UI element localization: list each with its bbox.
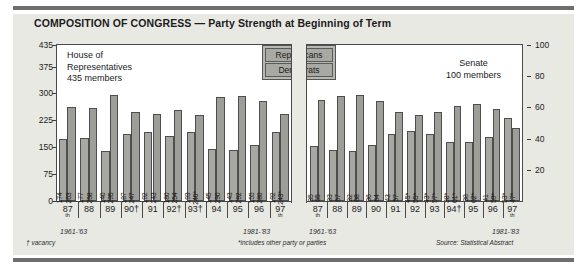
x-axis-label-96: 96 (248, 204, 269, 214)
bar-group: 155280 (248, 45, 269, 201)
bar-democrat[interactable]: 254 (174, 110, 183, 201)
y-tick-mark-right (527, 45, 531, 46)
bar-group: 3268 (347, 45, 366, 201)
bar-value-label: 240* (192, 191, 199, 205)
axis-separator (227, 201, 228, 218)
x-axis-label-89: 89 (100, 204, 121, 214)
bar-republican[interactable]: 180 (165, 136, 174, 201)
bar-democrat[interactable]: 243* (280, 114, 289, 201)
bar-value-label: 247 (128, 192, 135, 203)
bar-democrat[interactable]: 292 (238, 96, 247, 201)
bar-value-label: 174 (56, 192, 63, 203)
axis-separator (142, 201, 143, 218)
bar-democrat[interactable]: 55* (415, 115, 423, 201)
axis-separator (366, 201, 367, 218)
bar-democrat[interactable]: 47* (512, 128, 520, 201)
footnote-other-party: *includes other party or parties (238, 239, 326, 246)
y-tick-left-225: 225 (39, 115, 53, 125)
bar-republican[interactable]: 41 (485, 137, 493, 201)
bar-democrat[interactable]: 263 (67, 107, 76, 201)
bar-value-label: 35 (307, 194, 314, 201)
x-label-suffix: th (503, 213, 522, 218)
bar-value-label: 59* (490, 193, 497, 203)
bar-republican[interactable]: 43 (388, 134, 396, 201)
bar-democrat[interactable]: 62* (473, 104, 481, 201)
bar-value-label: 292 (235, 192, 242, 203)
bar-democrat[interactable]: 68 (356, 95, 364, 201)
bar-republican[interactable]: 43* (426, 134, 434, 201)
axis-separator (444, 201, 445, 218)
bar-republican[interactable]: 192 (144, 132, 153, 201)
title-dash: — (191, 17, 208, 29)
bar-democrat[interactable]: 290 (216, 97, 225, 201)
bar-republican[interactable]: 53* (504, 118, 512, 201)
bar-democrat[interactable]: 64 (376, 101, 384, 201)
bar-group: 140295 (100, 45, 121, 201)
y-tick-left-150: 150 (39, 142, 53, 152)
x-axis-label-89: 89 (347, 204, 366, 214)
house-range-right: 1981-'83 (243, 228, 270, 235)
bar-value-label: 263 (65, 192, 72, 203)
top-rule (13, 6, 574, 10)
x-axis-label-97th: 97th (503, 204, 522, 218)
bar-group: 38*61* (444, 45, 463, 201)
y-tick-left-300: 300 (39, 88, 53, 98)
y-tick-right-100: 100 (535, 40, 549, 50)
bar-group: 3565 (308, 45, 327, 201)
bar-republican[interactable]: 45* (407, 131, 415, 201)
bar-group: 192243 (142, 45, 163, 201)
axis-separator (185, 201, 186, 218)
bar-republican[interactable]: 33 (329, 150, 337, 201)
bar-value-label: 280 (256, 192, 263, 203)
bar-democrat[interactable]: 59* (493, 109, 501, 201)
x-axis-label-97th: 97th (270, 204, 291, 218)
axis-separator (425, 201, 426, 218)
bar-group: 4159* (483, 45, 502, 201)
y-tick-mark-right (527, 107, 531, 108)
y-tick-mark-left (52, 174, 56, 175)
x-axis-label-94: 94 (206, 204, 227, 214)
bars-house: 1742631772581402951872471922431802541932… (57, 45, 291, 201)
x-axis-label-96: 96 (483, 204, 502, 214)
y-tick-right-80: 80 (535, 71, 544, 81)
bar-democrat[interactable]: 57* (434, 112, 442, 201)
bar-value-label: 55* (412, 193, 419, 203)
bar-democrat[interactable]: 280 (259, 101, 268, 201)
axis-separator (464, 201, 465, 218)
chart-root: COMPOSITION OF CONGRESS — Party Strength… (0, 0, 587, 269)
x-axis-label-88: 88 (327, 204, 346, 214)
bar-democrat[interactable]: 243 (153, 114, 162, 201)
bar-democrat[interactable]: 240* (195, 115, 204, 201)
bar-republican[interactable]: 187 (123, 134, 132, 201)
y-tick-mark-left (52, 93, 56, 94)
y-tick-mark-right (527, 170, 531, 171)
x-axis-label-92: 92 (405, 204, 424, 214)
bar-democrat[interactable]: 65 (318, 100, 326, 201)
bar-value-label: 67 (334, 194, 341, 201)
axis-separator (405, 201, 406, 218)
bar-democrat[interactable]: 247 (131, 112, 140, 201)
bar-value-label: 290 (214, 192, 221, 203)
x-axis-label-88: 88 (78, 204, 99, 214)
bar-democrat[interactable]: 258 (89, 108, 98, 201)
bar-democrat[interactable]: 67 (337, 96, 345, 201)
axis-separator (386, 201, 387, 218)
bar-group: 3664 (366, 45, 385, 201)
bar-democrat[interactable]: 57 (395, 112, 403, 201)
bar-value-label: 64 (373, 194, 380, 201)
bar-republican[interactable]: 36 (368, 145, 376, 201)
footnote-source: Source: Statistical Abstract (436, 239, 513, 246)
footnote-vacancy: † vacancy (26, 239, 55, 246)
x-axis-label-90dag: 90† (121, 204, 142, 214)
x-axis-label-90: 90 (366, 204, 385, 214)
axis-separator (347, 201, 348, 218)
x-label-suffix: th (57, 213, 78, 218)
bar-republican[interactable]: 35 (310, 146, 318, 201)
axis-separator (121, 201, 122, 218)
x-axis-label-95: 95 (227, 204, 248, 214)
bar-democrat[interactable]: 295 (110, 95, 119, 201)
bar-value-label: 258 (86, 192, 93, 203)
axis-separator (248, 201, 249, 218)
title-main: COMPOSITION OF CONGRESS (34, 17, 191, 29)
bar-democrat[interactable]: 61* (454, 106, 462, 201)
